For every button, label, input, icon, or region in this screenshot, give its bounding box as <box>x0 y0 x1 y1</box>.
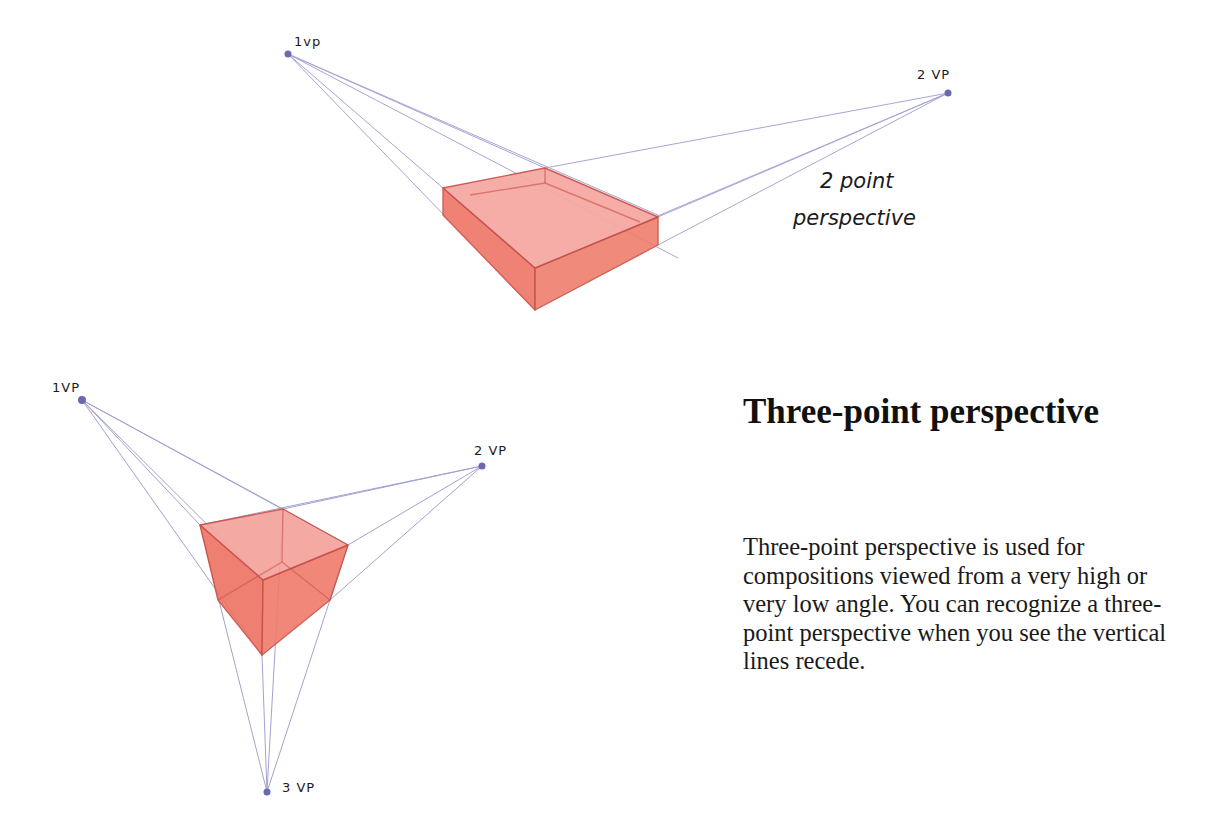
two-point-diagram: 1vp 2 VP 2 point perspective <box>285 34 952 310</box>
vp1-dot <box>78 396 86 404</box>
vp3-label: 3 VP <box>282 780 315 795</box>
description-paragraph: Three-point perspective is used for comp… <box>743 533 1193 676</box>
vp1-label: 1vp <box>294 34 321 49</box>
vp3-dot <box>264 789 271 796</box>
two-point-caption-line2: perspective <box>792 206 916 230</box>
vp1-dot <box>285 51 292 58</box>
box-2pt <box>443 168 658 310</box>
vp2-label: 2 VP <box>474 443 507 458</box>
vp2-dot <box>479 463 486 470</box>
three-point-diagram: 1VP 2 VP 3 VP <box>52 380 507 796</box>
vp2-label: 2 VP <box>917 67 950 82</box>
vp1-label: 1VP <box>52 380 80 395</box>
two-point-caption-line1: 2 point <box>820 169 894 193</box>
cube-3pt <box>200 509 348 655</box>
section-heading: Three-point perspective <box>743 392 1099 432</box>
vp2-dot <box>945 90 952 97</box>
